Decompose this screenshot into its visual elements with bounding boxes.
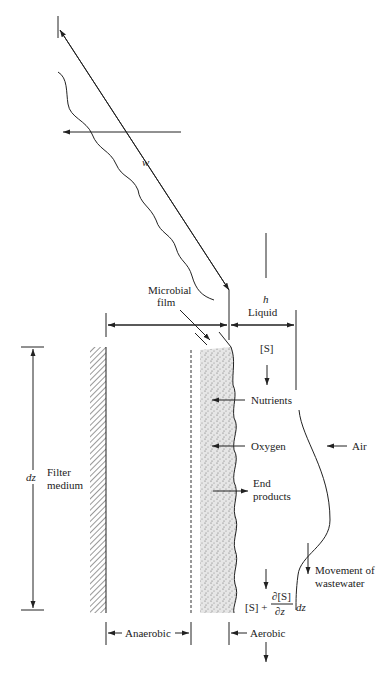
nutrients-label: Nutrients	[251, 394, 292, 406]
filter-medium-hatch	[90, 347, 106, 613]
air-label: Air	[352, 440, 367, 452]
microbial-film-label-2: film	[157, 296, 176, 308]
movement-label-1: Movement of	[315, 564, 375, 576]
partial-numerator: ∂[S]	[272, 590, 291, 602]
rotated-film-surface	[58, 72, 214, 300]
h-label: h	[263, 293, 269, 305]
aerobic-label: Aerobic	[250, 627, 286, 639]
anaerobic-label: Anaerobic	[125, 627, 171, 639]
dz-label: dz	[26, 471, 37, 483]
end-products-label-2: products	[253, 490, 291, 502]
biofilm-diagram: w h Liquid Microbial film dz Filter medi…	[0, 0, 389, 674]
movement-label-2: wastewater	[315, 577, 365, 589]
s-top-label: [S]	[260, 342, 273, 354]
microbial-film-label-1: Microbial	[148, 284, 191, 296]
filter-medium-label-1: Filter	[47, 466, 71, 478]
microbial-film	[200, 347, 237, 613]
w-dimension: w	[58, 16, 229, 290]
end-products-label-1: End	[253, 477, 271, 489]
liquid-label: Liquid	[248, 306, 278, 318]
oxygen-label: Oxygen	[251, 440, 286, 452]
w-label: w	[142, 156, 150, 168]
dz-dimension: dz	[21, 347, 44, 610]
dz-bottom-label: dz	[296, 601, 307, 613]
s-bottom-label: [S] +	[245, 601, 267, 613]
filter-medium-label-2: medium	[47, 479, 83, 491]
partial-denominator: ∂z	[275, 605, 285, 617]
